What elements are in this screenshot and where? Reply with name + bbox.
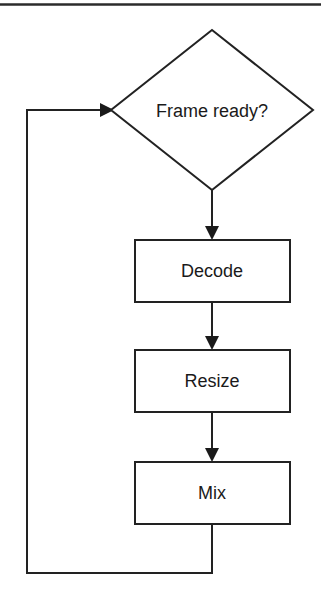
node-frame-ready-label: Frame ready? xyxy=(156,101,268,121)
node-decode-label: Decode xyxy=(181,261,243,281)
node-resize-label: Resize xyxy=(184,371,239,391)
arrowhead-into-mix xyxy=(205,448,219,462)
arrowhead-into-resize xyxy=(205,336,219,350)
flowchart-figure: Frame ready? Decode Resize Mix xyxy=(0,0,321,604)
node-mix-label: Mix xyxy=(198,483,226,503)
arrowhead-into-decode xyxy=(205,226,219,240)
flowchart-canvas: Frame ready? Decode Resize Mix xyxy=(0,0,321,604)
